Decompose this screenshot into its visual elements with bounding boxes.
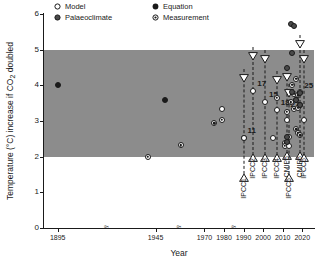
x-axis-label: Year: [44, 248, 314, 258]
x-tick-label: 2000: [255, 234, 271, 241]
filled-circle-icon: [152, 3, 159, 10]
assessment-name-label: IPCC2: [249, 158, 256, 179]
climate-sensitivity-chart: Model Palaeoclimate Equation Measurement…: [0, 0, 331, 266]
y-axis-label-text: Temperature (°C) increase if CO2 doubled: [5, 21, 18, 221]
data-point-measurement: [297, 132, 303, 138]
legend-label-model: Model: [65, 2, 85, 11]
range-upper-marker-icon: [260, 49, 270, 67]
data-point-palaeoclimate: [291, 23, 297, 29]
x-tick: [156, 228, 157, 232]
x-tick-label: 1990: [236, 234, 252, 241]
axis-break-icon: ≈: [104, 223, 109, 232]
data-point-model: [250, 88, 256, 94]
x-tick: [224, 228, 225, 232]
axis-break-icon: ≈: [177, 223, 182, 232]
x-tick: [283, 228, 284, 232]
assessment-model-count-label: 25: [304, 82, 313, 90]
legend-label-equation: Equation: [163, 2, 193, 11]
data-point-equation: [162, 97, 168, 103]
data-point-model: [219, 106, 225, 112]
x-tick-label: 1970: [197, 234, 213, 241]
range-upper-marker-icon: [239, 68, 249, 86]
x-tick: [58, 228, 59, 232]
x-tick-label: 1895: [50, 234, 66, 241]
y-tick: [40, 228, 44, 229]
range-upper-marker-icon: [248, 46, 258, 64]
data-point-measurement: [211, 120, 217, 126]
assessment-name-label: IPCC5: [285, 178, 292, 199]
x-tick: [244, 228, 245, 232]
plot-area: 012345618951945197019801990200020102020≈…: [44, 14, 314, 228]
data-point-palaeoclimate: [297, 90, 303, 96]
data-point-measurement: [219, 117, 225, 123]
assessment-name-label: IPCC6: [300, 158, 307, 179]
data-point-equation: [55, 82, 61, 88]
assessment-model-count-label: 11: [248, 127, 256, 135]
x-tick: [204, 228, 205, 232]
y-tick: [40, 192, 44, 193]
y-tick: [40, 121, 44, 122]
y-tick-label: 1: [35, 188, 39, 196]
data-point-measurement: [289, 82, 295, 88]
assessment-name-label: IPCC1: [240, 178, 247, 199]
x-tick: [302, 228, 303, 232]
y-tick: [40, 14, 44, 15]
y-tick: [40, 157, 44, 158]
x-tick: [263, 228, 264, 232]
assessment-name-label: IPCC4: [273, 158, 280, 179]
y-tick-label: 5: [35, 46, 39, 54]
data-point-palaeoclimate: [289, 89, 295, 95]
y-tick-label: 0: [35, 224, 39, 232]
data-point-palaeoclimate: [289, 50, 295, 56]
y-tick-label: 2: [35, 153, 39, 161]
data-point-model: [270, 135, 276, 141]
range-upper-marker-icon: [299, 49, 309, 67]
open-circle-icon: [54, 3, 61, 10]
y-tick: [40, 85, 44, 86]
data-point-model: [262, 99, 268, 105]
data-point-model: [241, 135, 247, 141]
data-point-model: [284, 117, 290, 123]
data-point-palaeoclimate: [297, 102, 303, 108]
data-point-measurement: [274, 95, 280, 101]
assessment-name-label: IPCC3: [261, 158, 268, 179]
y-tick-label: 6: [35, 10, 39, 18]
data-point-palaeoclimate: [284, 139, 290, 145]
y-axis-label: Temperature (°C) increase if CO2 doubled: [9, 14, 21, 228]
y-tick: [40, 50, 44, 51]
legend-item-equation: Equation: [152, 2, 193, 11]
data-point-model: [301, 117, 307, 123]
x-tick-label: 1945: [148, 234, 164, 241]
data-point-palaeoclimate: [284, 65, 290, 71]
y-tick-label: 4: [35, 81, 39, 89]
range-upper-marker-icon: [272, 70, 282, 88]
x-tick-label: 2020: [294, 234, 310, 241]
x-tick-label: 2010: [275, 234, 291, 241]
data-point-measurement: [178, 142, 184, 148]
legend-item-model: Model: [54, 2, 85, 11]
axis-break-icon: ≈: [231, 223, 236, 232]
data-point-measurement: [145, 154, 151, 160]
data-point-measurement: [284, 109, 290, 115]
data-point-measurement: [293, 76, 299, 82]
data-point-model: [274, 107, 280, 113]
x-tick-label: 1980: [216, 234, 232, 241]
y-tick-label: 3: [35, 117, 39, 125]
